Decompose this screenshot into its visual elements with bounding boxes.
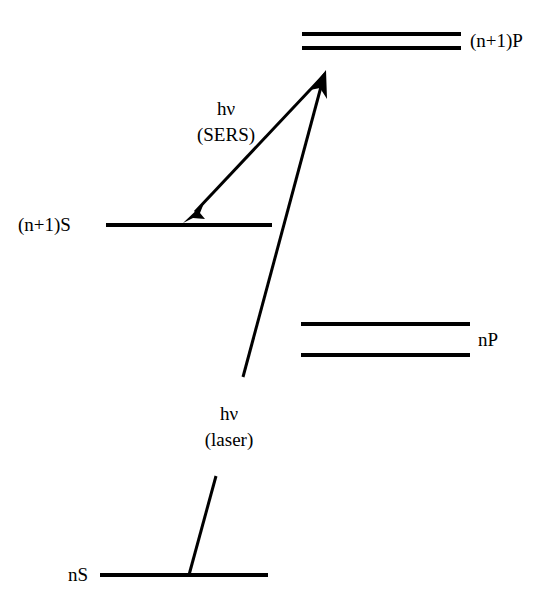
energy-level-diagram: (n+1)P (n+1)S nP nS hν (SERS) hν (laser): [0, 0, 557, 608]
arrow-shaft-lower: [189, 476, 216, 575]
transition-label-sers: hν (SERS): [176, 96, 276, 147]
photon-energy-symbol: hν: [176, 96, 276, 122]
photon-energy-symbol: hν: [179, 401, 279, 427]
level-label-n-plus-1-S: (n+1)S: [18, 215, 71, 234]
level-label-nP: nP: [478, 330, 498, 349]
level-label-n-plus-1-P: (n+1)P: [470, 31, 523, 50]
level-lines-nP: [301, 324, 470, 355]
transition-process-name: (SERS): [176, 122, 276, 148]
level-label-nS: nS: [68, 565, 88, 584]
level-lines-n-plus-1-P: [302, 34, 461, 48]
transition-process-name: (laser): [179, 427, 279, 453]
arrowhead: [183, 203, 205, 223]
transition-label-laser: hν (laser): [179, 401, 279, 452]
diagram-canvas: [0, 0, 557, 608]
